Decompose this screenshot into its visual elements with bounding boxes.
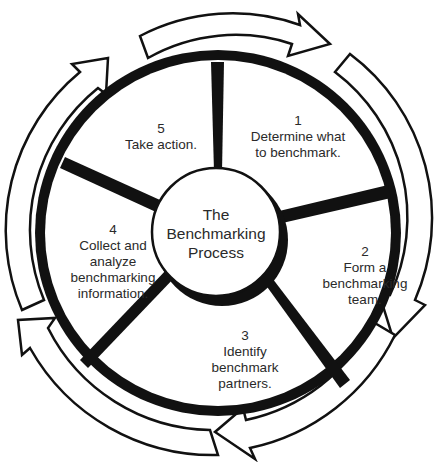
- step-4-label: 4 Collect and analyze benchmarking infor…: [57, 222, 169, 302]
- step-text-line: information.: [57, 286, 169, 302]
- step-text-line: analyze: [57, 254, 169, 270]
- step-text-line: benchmarking: [310, 276, 420, 292]
- step-text-line: Form a: [310, 260, 420, 276]
- step-number: 4: [57, 222, 169, 238]
- step-5-label: 5 Take action.: [106, 121, 216, 153]
- step-text-line: Identify: [195, 344, 295, 360]
- step-text-line: Determine what: [238, 129, 358, 145]
- step-text-line: team.: [310, 292, 420, 308]
- step-text-line: Collect and: [57, 238, 169, 254]
- step-text-line: benchmark: [195, 360, 295, 376]
- center-title-line: Benchmarking: [156, 224, 276, 243]
- center-title-line: Process: [156, 243, 276, 262]
- step-number: 2: [310, 244, 420, 260]
- step-3-label: 3 Identify benchmark partners.: [195, 328, 295, 392]
- step-number: 5: [106, 121, 216, 137]
- step-text-line: Take action.: [106, 137, 216, 153]
- center-title-line: The: [156, 205, 276, 224]
- step-number: 3: [195, 328, 295, 344]
- center-title: The Benchmarking Process: [156, 205, 276, 262]
- step-text-line: benchmarking: [57, 270, 169, 286]
- step-text-line: partners.: [195, 376, 295, 392]
- step-1-label: 1 Determine what to benchmark.: [238, 113, 358, 161]
- step-text-line: to benchmark.: [238, 145, 358, 161]
- step-2-label: 2 Form a benchmarking team.: [310, 244, 420, 308]
- step-number: 1: [238, 113, 358, 129]
